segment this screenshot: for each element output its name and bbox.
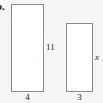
large-rectangle-height-label: 11 xyxy=(46,42,55,52)
small-rectangle-height-label: x xyxy=(95,52,99,62)
part-label: b. xyxy=(0,0,5,12)
small-rectangle-width-label: 3 xyxy=(66,92,93,102)
large-rectangle-width-label: 4 xyxy=(11,92,44,102)
geometry-figure: b. 11 4 x 3 xyxy=(0,0,103,103)
small-rectangle xyxy=(66,23,93,92)
large-rectangle xyxy=(11,4,44,92)
